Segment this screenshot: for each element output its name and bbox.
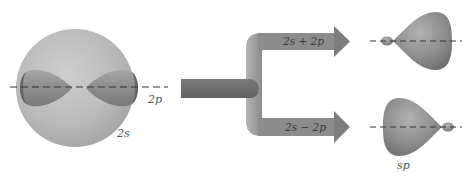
- diagram-canvas: [0, 0, 471, 178]
- label-sum-combination: 2s + 2p: [283, 36, 324, 47]
- label-difference-combination: 2s − 2p: [285, 122, 326, 133]
- label-2s: 2s: [117, 128, 130, 139]
- stem-arrow: [181, 79, 259, 98]
- label-2p: 2p: [148, 94, 162, 105]
- sp-hybrid-bottom: [370, 98, 462, 156]
- difference-arrow-head: [334, 111, 350, 143]
- sp-hybrid-top: [370, 12, 462, 70]
- sp-hybridization-diagram: 2p 2s 2s + 2p 2s − 2p sp: [0, 0, 471, 178]
- sum-arrow-head: [334, 26, 350, 57]
- label-sp-hybrid: sp: [397, 160, 410, 171]
